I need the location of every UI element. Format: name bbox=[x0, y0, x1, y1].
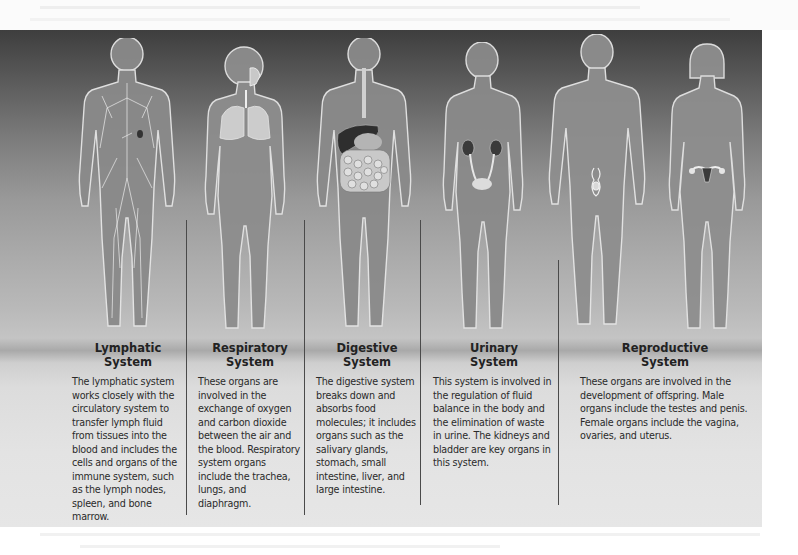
system-title-line: System bbox=[641, 355, 689, 369]
column-divider bbox=[558, 260, 559, 505]
system-title-line: System bbox=[226, 355, 274, 369]
body-figure-reproductive-female bbox=[664, 42, 750, 330]
system-description: These organs are involved in the exchang… bbox=[198, 375, 302, 510]
caption-digestive-system: Digestive System The digestive system br… bbox=[316, 341, 418, 497]
caption-lymphatic-system: Lymphatic System The lymphatic system wo… bbox=[72, 341, 184, 524]
body-figure-respiratory bbox=[200, 46, 290, 330]
system-description: The digestive system breaks down and abs… bbox=[316, 375, 418, 497]
system-title-line: Lymphatic bbox=[95, 341, 161, 355]
system-title: Lymphatic System bbox=[72, 341, 184, 369]
body-figure-digestive bbox=[312, 38, 422, 330]
system-title-line: System bbox=[104, 355, 152, 369]
system-description: The lymphatic system works closely with … bbox=[72, 375, 184, 524]
cropped-text-line bbox=[40, 6, 640, 9]
system-title-line: Digestive bbox=[336, 341, 397, 355]
spleen-icon bbox=[137, 130, 143, 138]
organ-systems-figure: Lymphatic System The lymphatic system wo… bbox=[0, 30, 762, 527]
column-divider bbox=[304, 220, 305, 515]
cropped-text-line bbox=[80, 545, 500, 548]
system-description: These organs are involved in the develop… bbox=[580, 375, 750, 443]
esophagus-icon bbox=[362, 68, 366, 118]
human-body-male-icon bbox=[312, 38, 422, 330]
system-title-line: System bbox=[470, 355, 518, 369]
bladder-icon bbox=[472, 178, 492, 190]
page-header-fragment bbox=[0, 0, 798, 30]
body-figure-urinary bbox=[436, 42, 528, 330]
human-body-male-icon bbox=[72, 38, 182, 330]
caption-reproductive-system: Reproductive System These organs are inv… bbox=[580, 341, 750, 443]
system-title: Digestive System bbox=[316, 341, 418, 369]
system-title: Urinary System bbox=[433, 341, 555, 369]
caption-urinary-system: Urinary System This system is involved i… bbox=[433, 341, 555, 470]
system-description: This system is involved in the regulatio… bbox=[433, 375, 555, 470]
system-title-line: Urinary bbox=[470, 341, 518, 355]
cropped-text-line bbox=[30, 18, 730, 21]
caption-respiratory-system: Respiratory System These organs are invo… bbox=[198, 341, 302, 510]
human-body-male-icon bbox=[544, 34, 650, 328]
stomach-icon bbox=[354, 133, 382, 151]
system-title-line: Reproductive bbox=[622, 341, 708, 355]
body-figure-reproductive-male bbox=[544, 34, 650, 328]
system-title: Reproductive System bbox=[580, 341, 750, 369]
cropped-text-line bbox=[40, 533, 760, 536]
human-body-female-icon bbox=[436, 42, 528, 330]
system-title-line: Respiratory bbox=[212, 341, 288, 355]
column-divider bbox=[186, 220, 187, 515]
human-body-female-icon bbox=[200, 46, 290, 330]
column-divider bbox=[420, 220, 421, 505]
system-title: Respiratory System bbox=[198, 341, 302, 369]
system-title-line: System bbox=[343, 355, 391, 369]
body-figure-lymphatic bbox=[72, 38, 182, 330]
intestines-icon bbox=[340, 150, 390, 192]
page-footer-fragment bbox=[0, 527, 798, 555]
human-body-female-icon bbox=[664, 42, 750, 330]
